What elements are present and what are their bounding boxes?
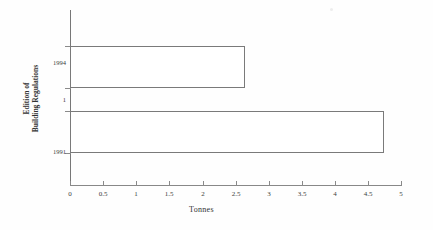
x-tick-label-2: 2: [201, 190, 205, 198]
x-tick-label-3-5: 3.5: [298, 190, 307, 198]
x-tick-3: [269, 181, 270, 186]
x-tick-label-0-5: 0.5: [99, 190, 108, 198]
x-tick-4: [335, 181, 336, 186]
x-tick-4-5: [368, 181, 369, 186]
x-tick-label-5: 5: [399, 190, 403, 198]
y-tick-label-1: 1: [63, 96, 66, 103]
y-axis-title-line-2: Building Regulations: [31, 65, 41, 132]
x-axis-title-text: Tonnes: [189, 205, 214, 214]
scan-speck: [330, 8, 333, 11]
x-tick-1: [136, 181, 137, 186]
x-tick-label-1-5: 1.5: [165, 190, 174, 198]
y-tick-label-1994: 1994: [53, 59, 66, 66]
x-tick-2-5: [236, 181, 237, 186]
y-axis-title: Edition of Building Regulations: [18, 11, 44, 186]
x-tick-label-3: 3: [267, 190, 271, 198]
x-tick-1-5: [169, 181, 170, 186]
x-tick-0-5: [103, 181, 104, 186]
x-tick-5: [401, 181, 402, 186]
y-tick-label-1991: 1991: [53, 148, 66, 155]
x-tick-label-0: 0: [68, 190, 72, 198]
y-axis-line: [70, 10, 71, 186]
x-axis-title: Tonnes: [0, 205, 433, 214]
bar-1994: [70, 46, 245, 88]
x-tick-label-4-5: 4.5: [364, 190, 373, 198]
bar-1991: [70, 111, 384, 153]
y-tick-mid-a: [65, 88, 71, 89]
x-tick-label-4: 4: [333, 190, 337, 198]
x-tick-label-2-5: 2.5: [232, 190, 241, 198]
bar-chart: 0 0.5 1 1.5 2 2.5 3 3.5 4 4.5 5 1994 1 1…: [0, 0, 433, 230]
x-tick-3-5: [302, 181, 303, 186]
x-tick-label-1: 1: [134, 190, 138, 198]
x-tick-2: [203, 181, 204, 186]
y-axis-title-line-1: Edition of: [22, 65, 32, 132]
x-tick-0: [70, 181, 71, 186]
